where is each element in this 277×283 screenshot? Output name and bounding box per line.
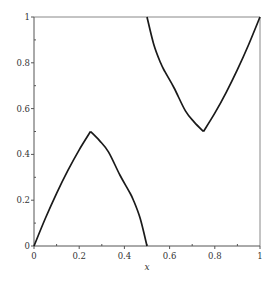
y-tick-label: 0 [25, 241, 30, 251]
x-tick-label: 0.8 [208, 251, 222, 261]
axis-ticks: 00.20.40.60.8100.20.40.60.81 [16, 12, 262, 261]
y-tick-label: 1 [25, 12, 30, 22]
data-curves [34, 17, 260, 246]
left-branch-curve [34, 132, 147, 247]
x-tick-label: 0.4 [118, 251, 132, 261]
x-tick-label: 0 [31, 251, 36, 261]
right-branch-curve [147, 17, 260, 132]
y-tick-label: 0.4 [16, 149, 30, 159]
line-chart: 00.20.40.60.8100.20.40.60.81 x [0, 0, 277, 283]
x-tick-label: 0.6 [163, 251, 177, 261]
y-tick-label: 0.8 [16, 58, 30, 68]
y-tick-label: 0.2 [16, 195, 30, 205]
x-axis-label: x [144, 262, 149, 272]
x-tick-label: 1 [257, 251, 262, 261]
y-tick-label: 0.6 [16, 104, 30, 114]
plot-frame [34, 17, 260, 246]
x-tick-label: 0.2 [72, 251, 86, 261]
